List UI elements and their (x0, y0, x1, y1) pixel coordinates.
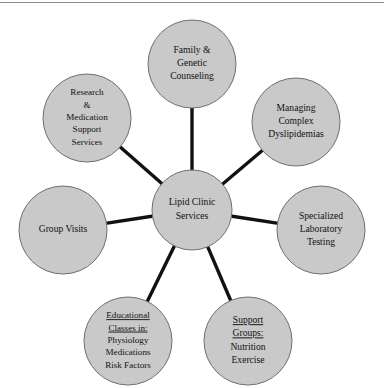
spoke-research-medication-support-services (119, 146, 162, 184)
lipid-clinic-services-diagram: Family &GeneticCounselingManagingComplex… (0, 0, 384, 388)
node-group-visits[interactable]: Group Visits (19, 186, 107, 274)
node-label-research-medication-support-services: Research&MedicationSupportServices (66, 87, 108, 147)
spoke-educational-classes (147, 245, 175, 302)
spoke-specialized-laboratory-testing (231, 216, 279, 223)
node-hub[interactable]: Lipid ClinicServices (152, 170, 232, 250)
node-label-group-visits: Group Visits (39, 223, 88, 234)
spoke-group-visits (105, 216, 153, 223)
spoke-support-groups (207, 246, 231, 302)
node-support-groups[interactable]: SupportGroups:NutritionExercise (204, 297, 292, 385)
node-managing-complex-dyslipidemias[interactable]: ManagingComplexDyslipidemias (252, 78, 340, 166)
diagram-canvas: Family &GeneticCounselingManagingComplex… (0, 0, 384, 388)
spoke-managing-complex-dyslipidemias (222, 150, 263, 185)
node-research-medication-support-services[interactable]: Research&MedicationSupportServices (43, 74, 131, 162)
node-specialized-laboratory-testing[interactable]: SpecializedLaboratoryTesting (277, 186, 365, 274)
node-family-genetic-counseling[interactable]: Family &GeneticCounseling (148, 20, 236, 108)
node-educational-classes[interactable]: EducationalClasses in:PhysiologyMedicati… (84, 297, 172, 385)
node-label-educational-classes: EducationalClasses in:PhysiologyMedicati… (105, 310, 151, 370)
node-circles-group: Family &GeneticCounselingManagingComplex… (19, 20, 365, 385)
